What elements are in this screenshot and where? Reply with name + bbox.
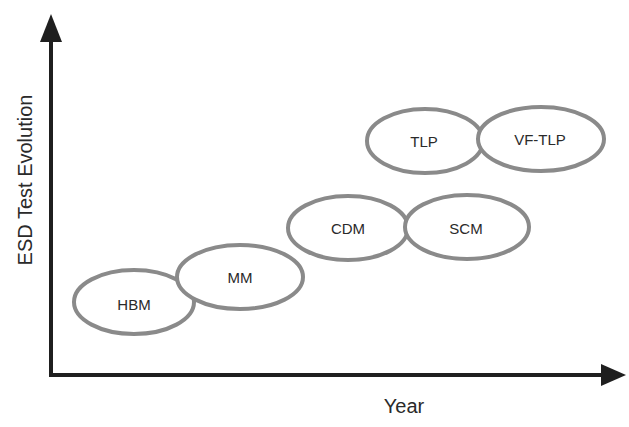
node-label: VF-TLP	[514, 131, 566, 148]
x-axis-arrow-icon	[601, 364, 626, 386]
node-mm: MM	[177, 245, 303, 309]
node-label: MM	[228, 269, 253, 286]
y-axis-arrow-icon	[40, 14, 62, 42]
node-label: CDM	[331, 220, 365, 237]
node-cdm: CDM	[288, 196, 408, 260]
y-axis-label: ESD Test Evolution	[14, 95, 36, 266]
esd-evolution-diagram: ESD Test Evolution Year HBM MM CDM SCM T…	[0, 0, 629, 427]
node-vf-tlp: VF-TLP	[478, 107, 604, 171]
node-scm: SCM	[405, 195, 529, 259]
node-label: SCM	[449, 220, 482, 237]
node-label: TLP	[410, 133, 438, 150]
x-axis-label: Year	[384, 395, 425, 417]
node-tlp: TLP	[367, 109, 483, 173]
node-label: HBM	[117, 296, 150, 313]
